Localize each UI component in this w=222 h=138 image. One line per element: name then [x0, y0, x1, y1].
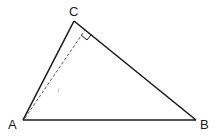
vertex-label-b: B: [200, 117, 209, 132]
vertex-label-a: A: [8, 117, 17, 132]
altitude-dashed: [25, 30, 85, 118]
vertex-label-c: C: [69, 4, 78, 19]
triangle-diagram: A B C: [0, 0, 222, 138]
side-ca: [23, 21, 74, 120]
side-bc: [74, 21, 196, 120]
faint-tick: [58, 88, 59, 93]
right-angle-marker: [81, 35, 91, 40]
